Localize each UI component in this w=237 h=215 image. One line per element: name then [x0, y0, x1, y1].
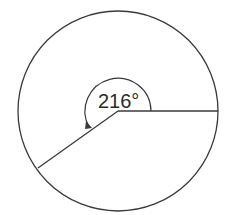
- arrowhead-icon: [85, 121, 92, 129]
- radius-angled: [38, 111, 118, 168]
- angle-label: 216°: [98, 90, 139, 112]
- circle-diagram: 216°: [0, 0, 237, 215]
